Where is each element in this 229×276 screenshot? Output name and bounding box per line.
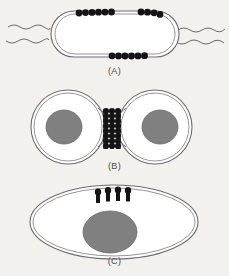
nucleoid-c [83, 211, 137, 253]
flagella-right [176, 28, 225, 44]
septum-bead-bridge [103, 108, 121, 149]
bacteria-diagram-svg [0, 0, 229, 276]
panel-label-b: (B) [0, 161, 229, 171]
cell-a-inner-membrane [55, 14, 175, 54]
panel-c-group [30, 185, 198, 259]
figure-container: (A) (B) (C) [0, 0, 229, 276]
nucleoid-b-right [142, 110, 178, 144]
panel-label-a: (A) [0, 66, 229, 76]
panel-b-group [31, 90, 192, 164]
flagella-left [6, 25, 50, 43]
panel-label-c: (C) [0, 256, 229, 266]
panel-a-group [6, 9, 225, 60]
nucleoid-b-left [46, 110, 82, 144]
